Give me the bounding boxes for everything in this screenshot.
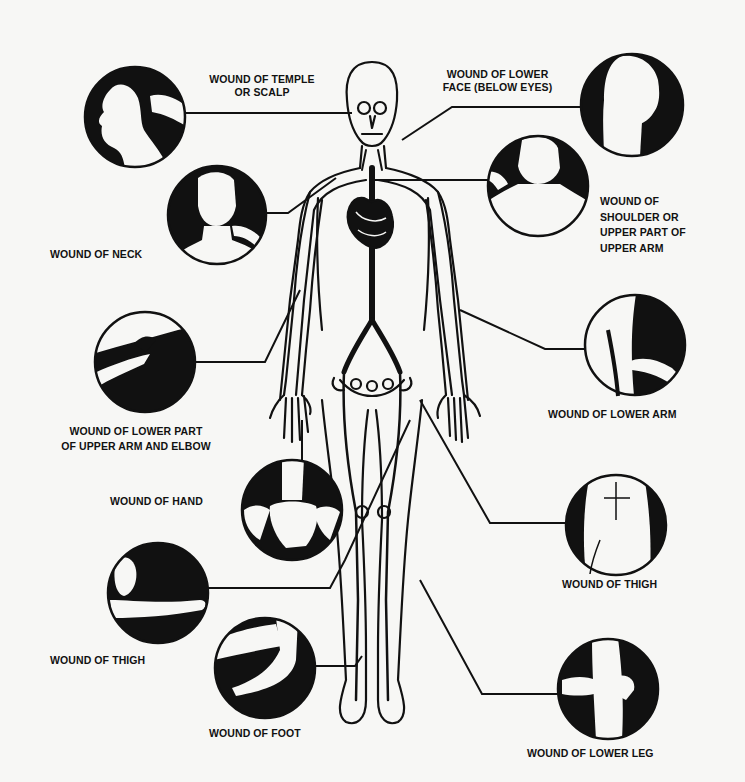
label-thigh-right: WOUND OF THIGH <box>562 578 657 591</box>
left-hand <box>270 395 311 442</box>
vignette-hand <box>242 458 342 560</box>
label-lower-arm: WOUND OF LOWER ARM <box>548 408 677 421</box>
label-hand: WOUND OF HAND <box>110 495 203 508</box>
label-foot: WOUND OF FOOT <box>209 727 301 740</box>
body-figure <box>270 62 480 723</box>
leader-lower-arm <box>460 310 585 349</box>
label-elbow: WOUND OF LOWER PART OF UPPER ARM AND ELB… <box>38 424 234 454</box>
label-temple: WOUND OF TEMPLE OR SCALP <box>187 73 337 99</box>
label-shoulder-line2: SHOULDER OR <box>600 210 686 226</box>
right-arm <box>438 192 464 395</box>
label-lower-face-line1: WOUND OF LOWER <box>430 68 565 81</box>
pelvis <box>340 380 404 396</box>
label-hand-line1: WOUND OF HAND <box>110 495 203 508</box>
vignette-lower-arm <box>584 294 685 396</box>
vignette-thigh-right <box>566 475 666 576</box>
heart <box>348 198 393 248</box>
vignette-temple <box>85 67 186 170</box>
vignette-foot <box>214 618 315 718</box>
label-lower-leg-line1: WOUND OF LOWER LEG <box>527 747 654 760</box>
label-elbow-line2: OF UPPER ARM AND ELBOW <box>38 439 234 454</box>
leader-lower-leg <box>420 580 558 694</box>
label-lower-leg: WOUND OF LOWER LEG <box>527 747 654 760</box>
label-lower-face-line2: FACE (BELOW EYES) <box>430 81 565 94</box>
label-foot-line1: WOUND OF FOOT <box>209 727 301 740</box>
label-shoulder: WOUND OF SHOULDER OR UPPER PART OF UPPER… <box>600 194 686 256</box>
vignette-elbow <box>92 302 196 412</box>
leader-foot <box>315 656 362 666</box>
label-shoulder-line1: WOUND OF <box>600 194 686 210</box>
label-temple-line2: OR SCALP <box>187 86 337 99</box>
vignette-neck <box>168 166 270 264</box>
label-shoulder-line4: UPPER ARM <box>600 241 686 257</box>
label-neck-line1: WOUND OF NECK <box>50 248 142 261</box>
label-thigh-left-line1: WOUND OF THIGH <box>50 654 145 667</box>
label-temple-line1: WOUND OF TEMPLE <box>187 73 337 86</box>
vignette-thigh-left <box>108 543 208 643</box>
label-neck: WOUND OF NECK <box>50 248 142 261</box>
leader-thigh-right <box>420 400 566 523</box>
label-thigh-right-line1: WOUND OF THIGH <box>562 578 657 591</box>
left-arm <box>284 192 310 395</box>
label-thigh-left: WOUND OF THIGH <box>50 654 145 667</box>
label-lower-face: WOUND OF LOWER FACE (BELOW EYES) <box>430 68 565 94</box>
leader-lower-face <box>402 107 581 140</box>
label-shoulder-line3: UPPER PART OF <box>600 225 686 241</box>
vignette-lower-face <box>581 54 683 160</box>
label-elbow-line1: WOUND OF LOWER PART <box>38 424 234 439</box>
vignette-lower-leg <box>558 638 658 740</box>
right-leg <box>376 400 422 723</box>
label-lower-arm-line1: WOUND OF LOWER ARM <box>548 408 677 421</box>
pressure-point-diagram: WOUND OF TEMPLE OR SCALP WOUND OF LOWER … <box>0 0 745 782</box>
right-hand <box>437 395 480 442</box>
vignette-shoulder <box>484 136 592 240</box>
